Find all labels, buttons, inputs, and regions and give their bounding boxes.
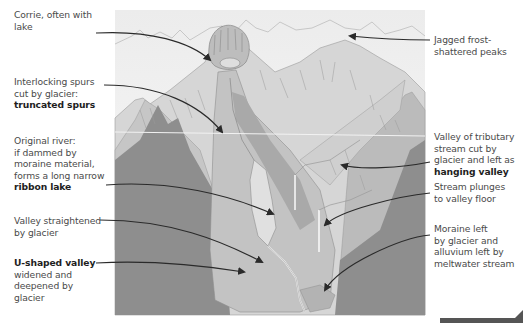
label-line: by glacier and xyxy=(434,235,514,247)
label-valley-straightened: Valley straightened by glacier xyxy=(14,215,101,238)
label-u-shaped-valley: U-shaped valley widened and deepened by … xyxy=(14,257,95,303)
label-ribbon-lake: Original river: if dammed by moraine mat… xyxy=(14,135,104,193)
label-line: glacier and left as xyxy=(434,154,515,166)
label-line: if dammed by xyxy=(14,147,104,159)
label-truncated-spurs: Interlocking spurs cut by glacier: trunc… xyxy=(14,76,95,111)
label-line: moraine material, xyxy=(14,158,104,170)
label-term-ribbon-lake: ribbon lake xyxy=(14,181,104,193)
label-corrie-line2: lake xyxy=(14,21,92,33)
label-line: Interlocking spurs xyxy=(14,76,95,88)
glacial-valley-diagram: Corrie, often with lake Interlocking spu… xyxy=(0,0,523,323)
label-jagged-peaks: Jagged frost- shattered peaks xyxy=(434,34,507,57)
label-line: Original river: xyxy=(14,135,104,147)
label-corrie: Corrie, often with lake xyxy=(14,9,92,32)
label-term-truncated-spurs: truncated spurs xyxy=(14,99,95,111)
label-line: meltwater stream xyxy=(434,258,514,270)
label-line: Moraine left xyxy=(434,223,514,235)
label-line: alluvium left by xyxy=(434,246,514,258)
label-line: glacier xyxy=(14,292,95,304)
label-line: Stream plunges xyxy=(434,181,505,193)
label-line: shattered peaks xyxy=(434,46,507,58)
label-hanging-valley: Valley of tributary stream cut by glacie… xyxy=(434,131,515,177)
label-line: cut by glacier: xyxy=(14,88,95,100)
label-term-u-shaped-valley: U-shaped valley xyxy=(14,257,95,269)
label-line: Valley straightened xyxy=(14,215,101,227)
label-line: deepened by xyxy=(14,280,95,292)
label-line: Valley of tributary xyxy=(434,131,515,143)
label-corrie-line1: Corrie, often with xyxy=(14,9,92,21)
label-line: to valley floor xyxy=(434,193,505,205)
label-term-hanging-valley: hanging valley xyxy=(434,166,515,178)
label-line: Jagged frost- xyxy=(434,34,507,46)
label-line: forms a long narrow xyxy=(14,170,104,182)
corrie-lake xyxy=(220,58,240,68)
label-moraine: Moraine left by glacier and alluvium lef… xyxy=(434,223,514,269)
page-strip xyxy=(440,310,523,323)
label-line: stream cut by xyxy=(434,143,515,155)
label-line: by glacier xyxy=(14,227,101,239)
label-line: widened and xyxy=(14,269,95,281)
label-stream-plunges: Stream plunges to valley floor xyxy=(434,181,505,204)
